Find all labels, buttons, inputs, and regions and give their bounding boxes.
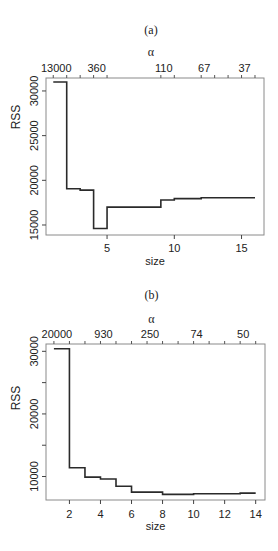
rss-step-line <box>54 349 256 495</box>
top-axis-tick-label: 67 <box>198 62 210 74</box>
plot-frame <box>46 344 265 500</box>
top-axis-tick-label: 20000 <box>42 328 73 340</box>
x-axis-tick-label: 10 <box>187 508 199 520</box>
y-axis-tick-label: 30000 <box>28 336 40 367</box>
chart-title: (b) <box>145 288 159 302</box>
y-axis-tick-label: 30000 <box>28 76 40 107</box>
x-axis-tick-label: 15 <box>235 242 247 254</box>
rss-step-line <box>53 82 255 229</box>
x-axis-tick-label: 4 <box>97 508 103 520</box>
top-axis-tick-label: 930 <box>94 328 112 340</box>
top-axis-tick-label: 250 <box>141 328 159 340</box>
chart-panel-a: (a)α13000360110673751015size150002000025… <box>9 23 264 267</box>
y-axis-label: RSS <box>9 386 23 411</box>
y-axis-tick-label: 25000 <box>28 120 40 151</box>
x-axis-tick-label: 2 <box>66 508 72 520</box>
chart-panel-b: (b)α2000093025074502468101214size1000020… <box>9 288 265 532</box>
x-axis-label: size <box>145 255 165 267</box>
x-axis-tick-label: 5 <box>104 242 110 254</box>
x-axis-tick-label: 12 <box>219 508 231 520</box>
x-axis-label: size <box>146 520 166 532</box>
top-axis-tick-label: 360 <box>87 62 105 74</box>
top-axis-tick-label: 74 <box>190 328 202 340</box>
x-axis-tick-label: 8 <box>159 508 165 520</box>
figure-canvas: (a)α13000360110673751015size150002000025… <box>0 0 278 551</box>
y-axis-label: RSS <box>9 105 23 130</box>
y-axis-tick-label: 20000 <box>28 165 40 196</box>
y-axis-tick-label: 10000 <box>28 461 40 492</box>
y-axis-tick-label: 15000 <box>28 210 40 241</box>
top-axis-tick-label: 50 <box>237 328 249 340</box>
top-axis-tick-label: 37 <box>238 62 250 74</box>
y-axis-tick-label: 20000 <box>28 399 40 430</box>
chart-title: (a) <box>144 23 157 37</box>
x-axis-tick-label: 14 <box>250 508 262 520</box>
top-axis-label: α <box>148 45 155 59</box>
top-axis-tick-label: 110 <box>155 62 173 74</box>
plot-frame <box>46 78 264 235</box>
top-axis-tick-label: 13000 <box>41 62 72 74</box>
top-axis-label: α <box>148 312 155 326</box>
x-axis-tick-label: 10 <box>168 242 180 254</box>
x-axis-tick-label: 6 <box>128 508 134 520</box>
